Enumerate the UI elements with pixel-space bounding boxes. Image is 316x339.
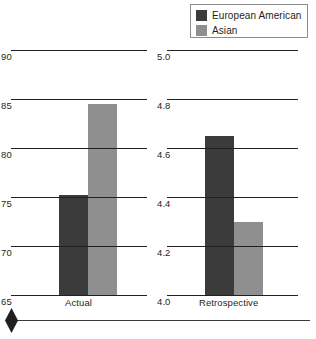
gridline-retrospective-4.8 (167, 99, 298, 100)
bar-retrospective-european-american (205, 136, 234, 295)
gridline-retrospective-4.6 (167, 148, 298, 149)
legend-item-european-american: European American (196, 8, 303, 22)
chart-panel-actual: Actual 657075808590 (0, 0, 160, 339)
chart-legend: European American Asian (190, 4, 308, 38)
y-tick-label-retrospective-5.0: 5.0 (157, 52, 171, 62)
category-label-retrospective: Retrospective (199, 297, 258, 308)
bar-retrospective-asian (234, 222, 263, 296)
bar-actual-asian (88, 104, 117, 295)
gridline-retrospective-4.4 (167, 197, 298, 198)
y-tick-label-retrospective-4.4: 4.4 (157, 199, 171, 209)
legend-label-asian: Asian (212, 25, 238, 36)
y-tick-label-retrospective-4.2: 4.2 (157, 248, 171, 258)
gridline-actual-80 (11, 148, 147, 149)
plot-area-retrospective (167, 50, 298, 295)
legend-label-european-american: European American (212, 10, 302, 21)
gridline-actual-65 (11, 295, 147, 296)
y-tick-label-actual-70: 70 (1, 248, 12, 258)
figure: European American Asian Actual 657075808… (0, 0, 316, 339)
y-tick-label-actual-65: 65 (1, 297, 12, 307)
plot-area-actual (11, 50, 147, 295)
gridline-actual-90 (11, 50, 147, 51)
legend-swatch-dark-icon (196, 10, 207, 21)
legend-swatch-gray-icon (196, 25, 207, 36)
y-tick-label-retrospective-4.6: 4.6 (157, 150, 171, 160)
gridline-retrospective-4.0 (167, 295, 298, 296)
gridline-retrospective-4.2 (167, 246, 298, 247)
y-tick-label-actual-80: 80 (1, 150, 12, 160)
gridline-actual-75 (11, 197, 147, 198)
y-tick-label-retrospective-4.8: 4.8 (157, 101, 171, 111)
gridline-retrospective-5.0 (167, 50, 298, 51)
legend-item-asian: Asian (196, 23, 303, 37)
gridline-actual-85 (11, 99, 147, 100)
bottom-rule (8, 320, 310, 321)
y-tick-label-actual-75: 75 (1, 199, 12, 209)
y-tick-label-retrospective-4.0: 4.0 (157, 297, 171, 307)
gridline-actual-70 (11, 246, 147, 247)
y-tick-label-actual-85: 85 (1, 101, 12, 111)
chart-panel-retrospective: Retrospective 4.04.24.44.64.85.0 (156, 0, 316, 339)
category-label-actual: Actual (65, 297, 92, 308)
y-tick-label-actual-90: 90 (1, 52, 12, 62)
